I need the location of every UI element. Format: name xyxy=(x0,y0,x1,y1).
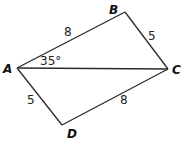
edge-da xyxy=(17,68,62,125)
edge-bc xyxy=(125,12,168,69)
angle-label-a: 35° xyxy=(40,54,61,68)
side-label-ab: 8 xyxy=(64,25,72,39)
edge-cd xyxy=(62,69,168,125)
quadrilateral-diagram: A B C D 8 5 8 5 35° xyxy=(0,0,194,142)
vertex-label-b: B xyxy=(109,3,118,17)
side-label-bc: 5 xyxy=(148,29,156,43)
vertex-label-d: D xyxy=(67,127,77,141)
side-label-da: 5 xyxy=(27,93,35,107)
vertex-label-c: C xyxy=(172,63,181,77)
edge-ab xyxy=(17,12,125,68)
vertex-label-a: A xyxy=(2,62,12,76)
diagonal-ac xyxy=(17,68,168,69)
side-label-cd: 8 xyxy=(120,93,128,107)
